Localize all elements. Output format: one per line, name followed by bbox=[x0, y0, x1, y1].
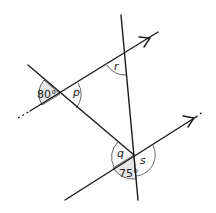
lower-parallel-dash bbox=[196, 111, 204, 117]
angle-r-label: r bbox=[114, 60, 120, 73]
upper-parallel-dash bbox=[18, 111, 30, 118]
angle-q-label: q bbox=[117, 147, 124, 160]
diagonal-transversal bbox=[28, 65, 134, 155]
angle-diagram: 80° p r q s 75° bbox=[0, 0, 216, 213]
angle-80-label: 80° bbox=[37, 88, 57, 101]
angle-p-label: p bbox=[72, 86, 80, 99]
angle-75-label: 75° bbox=[119, 167, 139, 180]
lower-parallel-line bbox=[65, 117, 196, 200]
angle-s-label: s bbox=[140, 154, 146, 167]
